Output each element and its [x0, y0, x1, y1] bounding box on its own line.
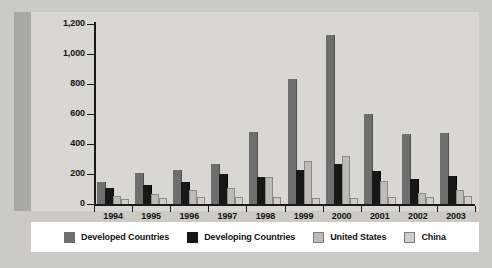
- bar: [265, 177, 273, 204]
- plot-panel: 02004006008001,0001,20019941995199619971…: [31, 12, 479, 211]
- x-axis-label: 2003: [437, 211, 475, 221]
- bar-group: [249, 24, 281, 204]
- china-swatch: [404, 232, 415, 243]
- bar: [151, 194, 159, 204]
- x-axis-label: 1999: [285, 211, 323, 221]
- developed-countries-swatch: [64, 232, 75, 243]
- y-axis-tick: [87, 114, 95, 115]
- united-states-swatch: [313, 232, 324, 243]
- y-axis-tick: [87, 174, 95, 175]
- x-axis-label: 1995: [132, 211, 170, 221]
- bar-group: [97, 24, 129, 204]
- x-axis-label: 2001: [361, 211, 399, 221]
- chart-figure: 02004006008001,0001,20019941995199619971…: [0, 0, 492, 268]
- bar: [273, 197, 281, 204]
- x-axis-label: 2000: [323, 211, 361, 221]
- bar: [121, 199, 129, 204]
- bar: [189, 190, 197, 204]
- bar-group: [364, 24, 396, 204]
- bar: [426, 197, 434, 205]
- bar: [464, 196, 472, 204]
- y-axis-tick: [87, 24, 95, 25]
- bar: [235, 197, 243, 205]
- x-axis-label: 1998: [246, 211, 284, 221]
- bar: [350, 198, 358, 204]
- panel-left-band: [14, 12, 31, 211]
- legend-item-label: Developing Countries: [204, 232, 295, 242]
- bar: [418, 193, 426, 204]
- y-axis-label: 200: [31, 169, 85, 178]
- bar-group: [440, 24, 472, 204]
- bar-group: [288, 24, 320, 204]
- legend-item-label: China: [421, 232, 446, 242]
- y-axis-label: 400: [31, 139, 85, 148]
- bar: [197, 197, 205, 204]
- y-axis-tick: [87, 54, 95, 55]
- x-axis-tick: [475, 206, 476, 212]
- bar: [113, 196, 121, 204]
- bar: [312, 198, 320, 204]
- chart-legend: Developed CountriesDeveloping CountriesU…: [31, 222, 479, 252]
- bar-group: [135, 24, 167, 204]
- bar: [456, 190, 464, 204]
- legend-item-label: Developed Countries: [81, 232, 169, 242]
- legend-item[interactable]: China: [404, 232, 446, 243]
- bar: [159, 198, 167, 204]
- x-axis-label: 1996: [170, 211, 208, 221]
- x-axis-label: 1997: [208, 211, 246, 221]
- bar-group: [173, 24, 205, 204]
- bar: [380, 181, 388, 204]
- bar: [388, 197, 396, 204]
- y-axis-label: 600: [31, 109, 85, 118]
- y-axis-label: 1,000: [31, 49, 85, 58]
- bar-group: [211, 24, 243, 204]
- y-axis-label: 1,200: [31, 19, 85, 28]
- x-axis-label: 2002: [399, 211, 437, 221]
- y-axis-tick: [87, 84, 95, 85]
- bar-group: [326, 24, 358, 204]
- bar: [304, 161, 312, 205]
- legend-item-label: United States: [330, 232, 386, 242]
- legend-item[interactable]: Developing Countries: [187, 232, 295, 243]
- bar: [227, 188, 235, 205]
- bar: [342, 156, 350, 204]
- y-axis-label: 0: [31, 199, 85, 208]
- x-axis-label: 1994: [94, 211, 132, 221]
- y-axis-label: 800: [31, 79, 85, 88]
- legend-item[interactable]: Developed Countries: [64, 232, 169, 243]
- legend-item[interactable]: United States: [313, 232, 386, 243]
- y-axis-tick: [87, 204, 95, 205]
- developing-countries-swatch: [187, 232, 198, 243]
- y-axis-tick: [87, 144, 95, 145]
- bar-group: [402, 24, 434, 204]
